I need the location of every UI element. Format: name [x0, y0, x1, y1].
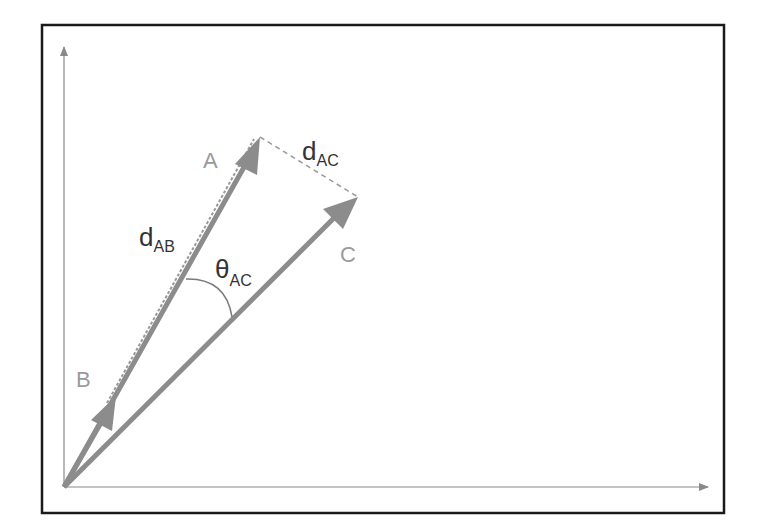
label-d-ac-sub: AC — [316, 152, 338, 169]
label-d-ac-main: d — [302, 136, 316, 166]
label-d-ab-main: d — [139, 222, 153, 252]
label-a: A — [203, 148, 218, 173]
label-d-ab-sub: AB — [153, 238, 174, 255]
vector-diagram: A B C dAC dAB θAC — [0, 0, 763, 530]
label-theta-ac-sub: AC — [229, 272, 251, 289]
diagram-frame — [42, 25, 724, 513]
label-c: C — [340, 242, 356, 267]
label-theta-ac-main: θ — [215, 254, 229, 284]
label-b: B — [76, 367, 91, 392]
